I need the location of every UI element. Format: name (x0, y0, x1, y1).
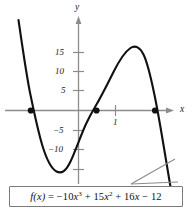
plot-canvas (0, 0, 194, 214)
equation-term-4-sign: − (142, 191, 148, 202)
cubic-function-figure: 15 10 5 −5 −10 1 y x f(x) = −10x3 + 15x2… (0, 0, 194, 214)
x-intercept-middle-marker (93, 107, 99, 113)
equation-term-4-coefficient: 12 (151, 191, 162, 202)
x-tick-label-1: 1 (113, 118, 118, 127)
equation-term-1-exponent: 3 (78, 190, 82, 198)
equation-text: f(x) = −10x3 + 15x2 + 16x − 12 (30, 191, 161, 202)
y-tick-label-minus-5: −5 (53, 126, 64, 135)
equation-term-3-coefficient: 16 (124, 191, 135, 202)
x-axis-arrowhead (166, 108, 174, 114)
y-tick-label-15: 15 (55, 48, 64, 57)
equation-term-3-variable: x (135, 191, 140, 202)
y-tick-label-minus-10: −10 (48, 145, 63, 154)
equation-callout-box: f(x) = −10x3 + 15x2 + 16x − 12 (9, 186, 183, 207)
equation-term-2-exponent: 2 (109, 190, 113, 198)
y-axis-label: y (75, 3, 79, 13)
equation-lhs: f(x) (30, 191, 45, 202)
function-curve (19, 20, 171, 187)
equation-term-3-sign: + (115, 191, 121, 202)
equation-term-1-coefficient: 10 (63, 191, 74, 202)
equation-term-2-sign: + (85, 191, 91, 202)
y-axis-arrowhead (76, 16, 82, 24)
equation-equals-sign: = (48, 191, 54, 202)
y-tick-label-10: 10 (55, 67, 64, 76)
equation-term-2-coefficient: 15 (93, 191, 104, 202)
y-tick-label-5: 5 (61, 86, 66, 95)
x-axis-label: x (180, 105, 184, 115)
x-intercept-right-marker (152, 107, 158, 113)
x-intercept-left-marker (28, 107, 34, 113)
